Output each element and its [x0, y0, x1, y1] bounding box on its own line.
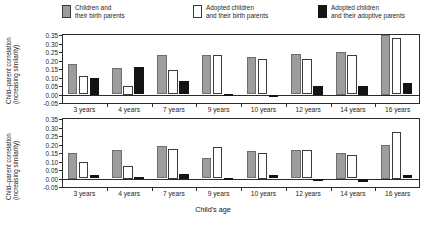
bar — [112, 150, 122, 179]
bar — [258, 153, 268, 179]
bar — [347, 55, 357, 94]
bar — [134, 67, 144, 94]
x-tick-label: 3 years — [74, 190, 96, 197]
plot-area-spatial — [62, 118, 420, 188]
y-tick-label: 0.15 — [22, 66, 58, 73]
bar — [168, 70, 178, 95]
legend-label-line1: Adopted children — [206, 4, 254, 11]
legend-swatch-white-icon — [193, 5, 202, 18]
x-tick-label: 14 years — [340, 106, 365, 113]
y-tick-label: 0.30 — [22, 124, 58, 131]
x-tick-mark — [375, 104, 376, 107]
legend-label-adopted-birth: Adopted children and their birth parents — [206, 4, 268, 19]
bar — [336, 153, 346, 179]
y-tick-label: 0.05 — [22, 167, 58, 174]
x-tick-label: 16 years — [385, 190, 410, 197]
x-tick-label: 10 years — [251, 190, 276, 197]
legend-label-adopted-adoptive: Adopted children and their adoptive pare… — [331, 4, 405, 19]
x-tick-mark — [107, 104, 108, 107]
bar — [157, 55, 167, 94]
bar — [213, 55, 223, 94]
bar — [247, 151, 257, 178]
bar — [224, 178, 234, 180]
bar — [168, 149, 178, 179]
legend-label-line2: their birth parents — [75, 12, 125, 19]
x-tick-mark — [107, 188, 108, 191]
bar — [302, 150, 312, 179]
x-tick-mark — [196, 104, 197, 107]
y-tick-label: 0.10 — [22, 74, 58, 81]
bar — [302, 59, 312, 95]
x-tick-mark — [241, 104, 242, 107]
bar — [347, 155, 357, 179]
x-tick-mark — [375, 188, 376, 191]
x-tick-label: 14 years — [340, 190, 365, 197]
y-tick-mark — [59, 86, 62, 87]
bar — [90, 78, 100, 95]
bar — [392, 132, 402, 179]
x-tick-mark — [241, 188, 242, 191]
chart-legend: Children and their birth parents Adopted… — [62, 4, 422, 30]
bar — [202, 55, 212, 94]
bar — [90, 175, 100, 178]
y-tick-label: 0.20 — [22, 57, 58, 64]
legend-swatch-black-icon — [318, 5, 327, 18]
y-axis-title-line2: (increasing similarity) — [12, 37, 19, 104]
x-tick-mark — [152, 188, 153, 191]
bar — [68, 64, 78, 95]
legend-label-line2: and their adoptive parents — [331, 12, 405, 19]
y-tick-mark — [59, 69, 62, 70]
y-tick-label: 0.15 — [22, 150, 58, 157]
x-tick-mark — [152, 104, 153, 107]
y-tick-mark — [59, 95, 62, 96]
bar — [123, 166, 133, 179]
y-tick-mark — [59, 61, 62, 62]
y-tick-label: 0.35 — [22, 116, 58, 123]
y-tick-label: 0.00 — [22, 175, 58, 182]
legend-swatch-gray-icon — [62, 5, 71, 18]
x-tick-label: 12 years — [295, 106, 320, 113]
y-tick-mark — [59, 170, 62, 171]
x-tick-label: 9 years — [208, 106, 230, 113]
bar — [258, 59, 268, 95]
bar — [213, 147, 223, 178]
y-tick-label: -0.05 — [22, 184, 58, 191]
bar — [269, 175, 279, 178]
y-tick-mark — [59, 119, 62, 120]
bar — [179, 174, 189, 178]
x-tick-label: 7 years — [163, 106, 185, 113]
y-axis-title-line1: Child–parent correlation — [5, 133, 12, 200]
bar — [112, 68, 122, 94]
y-tick-label: 0.35 — [22, 32, 58, 39]
x-tick-mark — [196, 188, 197, 191]
bar — [269, 95, 279, 97]
plot-area-verbal — [62, 34, 420, 104]
bar — [179, 81, 189, 95]
y-tick-mark — [59, 162, 62, 163]
y-tick-mark — [59, 103, 62, 104]
y-axis-title-line1: Child–parent correlation — [5, 37, 12, 104]
y-axis-title-line2: (increasing similarity) — [12, 133, 19, 200]
figure-root: Children and their birth parents Adopted… — [0, 0, 426, 225]
x-tick-label: 12 years — [295, 190, 320, 197]
bar — [403, 83, 413, 95]
bar — [157, 146, 167, 178]
y-tick-mark — [59, 136, 62, 137]
legend-label-line1: Children and — [75, 4, 111, 11]
y-tick-label: 0.30 — [22, 40, 58, 47]
y-tick-label: 0.05 — [22, 83, 58, 90]
x-tick-label: 16 years — [385, 106, 410, 113]
y-tick-label: 0.10 — [22, 158, 58, 165]
zero-line — [63, 95, 419, 96]
bar — [313, 179, 323, 181]
y-tick-mark — [59, 52, 62, 53]
bar — [358, 179, 368, 182]
y-tick-mark — [59, 179, 62, 180]
y-tick-mark — [59, 128, 62, 129]
y-tick-mark — [59, 44, 62, 45]
bar — [79, 162, 89, 178]
legend-item-adopted-birth: Adopted children and their birth parents — [193, 4, 268, 19]
y-tick-mark — [59, 78, 62, 79]
y-axis-title-verbal: Child–parent correlation (increasing sim… — [5, 37, 20, 104]
x-tick-label: 10 years — [251, 106, 276, 113]
